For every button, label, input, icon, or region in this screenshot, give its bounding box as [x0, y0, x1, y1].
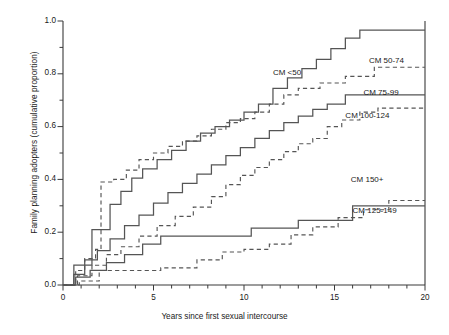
x-tick-label: 5	[142, 293, 166, 302]
x-tick-label: 10	[232, 293, 256, 302]
series-step-line-3	[63, 108, 425, 285]
series-label-cm-50-74: CM 50-74	[369, 56, 404, 65]
y-tick-label: 0.2	[28, 227, 56, 236]
y-tick-label: 1.0	[28, 16, 56, 25]
y-tick-label: 0.0	[28, 280, 56, 289]
x-tick-label: 15	[323, 293, 347, 302]
x-tick-label: 20	[413, 293, 437, 302]
series-label-cm-75-99: CM 75-99	[363, 88, 398, 97]
figure: Family planning adopters (cumulative pro…	[0, 0, 449, 335]
series-label-cm-150: CM 150+	[351, 175, 384, 184]
chart-canvas	[0, 0, 449, 335]
series-label-cm-125-149: CM 125-149	[353, 206, 397, 215]
x-axis-label: Years since first sexual intercourse	[0, 312, 449, 321]
series-step-line-0	[63, 30, 425, 285]
y-tick-label: 0.4	[28, 174, 56, 183]
y-tick-label: 0.6	[28, 121, 56, 130]
y-tick-label: 0.8	[28, 68, 56, 77]
x-tick-label: 0	[51, 293, 75, 302]
series-step-line-4	[63, 206, 425, 285]
series-step-line-2	[63, 95, 425, 285]
series-label-cm-50: CM <50	[273, 68, 301, 77]
series-label-cm-100-124: CM 100-124	[345, 111, 389, 120]
series-layer	[63, 30, 425, 285]
